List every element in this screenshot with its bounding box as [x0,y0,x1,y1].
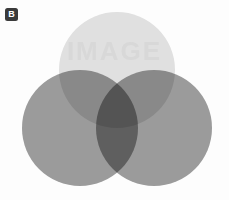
panel-label-letter: B [8,10,15,19]
figure-panel: IMAGE B [0,0,229,200]
panel-label-badge: B [5,8,18,21]
venn-diagram [0,0,229,200]
right-circle [96,70,212,186]
